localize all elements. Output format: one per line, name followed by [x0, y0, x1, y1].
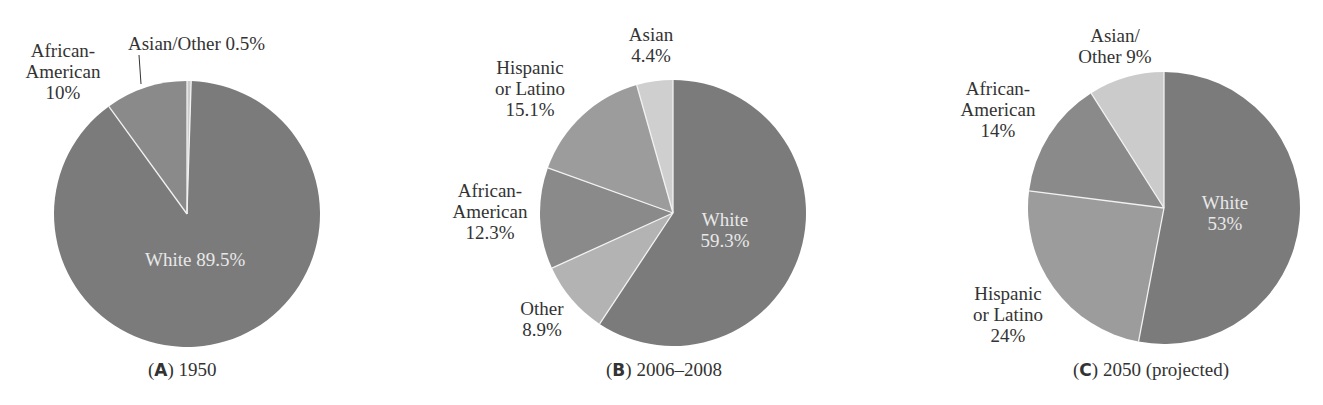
label-asian-2006: Asian 4.4%: [626, 24, 676, 66]
label-hispanic-2006: Hispanic or Latino 15.1%: [488, 57, 572, 120]
caption-2006-2008: (B) 2006–2008: [606, 359, 722, 381]
label-asian-other-1950: Asian/Other 0.5%: [128, 33, 265, 54]
label-african-american-2006: African- American 12.3%: [442, 180, 538, 243]
label-white-2050: White 53%: [1195, 192, 1255, 234]
pie-chart-2006-2008: Asian 4.4% Hispanic or Latino 15.1% Afri…: [440, 0, 880, 405]
label-other-2006: Other 8.9%: [514, 298, 570, 340]
pie-chart-1950: African- American 10% Asian/Other 0.5% W…: [0, 0, 440, 405]
caption-1950: (A) 1950: [148, 359, 217, 381]
label-white-2006: White 59.3%: [695, 209, 755, 251]
label-hispanic-2050: Hispanic or Latino 24%: [966, 283, 1050, 346]
label-african-american-1950: African- American 10%: [14, 40, 112, 103]
leader-line: [139, 55, 141, 84]
label-african-american-2050: African- American 14%: [950, 78, 1046, 141]
pie-chart-2050: Asian/ Other 9% African- American 14% Hi…: [880, 0, 1323, 405]
caption-2050: (C) 2050 (projected): [1073, 359, 1229, 381]
label-asian-other-2050: Asian/ Other 9%: [1070, 25, 1160, 67]
label-white-1950: White 89.5%: [145, 249, 245, 270]
